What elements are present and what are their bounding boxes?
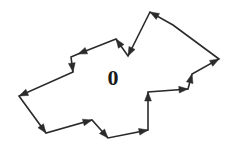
boundary-path — [19, 12, 219, 138]
arrowhead-icon — [19, 89, 29, 96]
arrowhead-icon — [145, 92, 152, 101]
arrowhead-icon — [82, 119, 92, 126]
arrowhead-icon — [139, 128, 148, 135]
arrowhead-icon — [209, 59, 219, 66]
arrowhead-icon — [68, 63, 75, 72]
arrowhead-icon — [78, 48, 88, 54]
polygon-arrowheads — [19, 12, 219, 138]
polygon-edges — [19, 12, 219, 138]
figure-canvas: 0 — [0, 0, 232, 148]
region-label-zero: 0 — [108, 67, 119, 89]
arrowhead-icon — [38, 124, 46, 133]
arrowhead-icon — [128, 46, 135, 56]
arrowhead-icon — [179, 86, 188, 93]
arrowhead-icon — [186, 74, 193, 84]
arrowhead-icon — [150, 12, 160, 19]
arrowhead-icon — [116, 39, 124, 48]
